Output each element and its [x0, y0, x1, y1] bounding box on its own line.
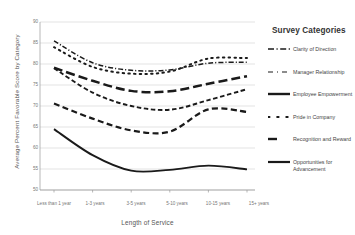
legend-swatch-solid-thick-icon [268, 89, 290, 99]
legend-label: Manager Relationship [293, 67, 345, 77]
series-line [54, 41, 247, 71]
legend-item-pride-in-company[interactable]: Pride in Company [268, 112, 355, 125]
series-line [54, 47, 247, 74]
grid-lines [40, 22, 255, 190]
legend-item-opportunities-for-advancement[interactable]: Opportunities for Advancement [268, 157, 355, 175]
legend-item-manager-relationship[interactable]: Manager Relationship [268, 67, 355, 80]
legend-swatch-solid-icon [268, 157, 290, 167]
legend-label: Pride in Company [293, 112, 335, 122]
legend-swatch-dotted-icon [268, 112, 290, 122]
legend-item-recognition-and-reward[interactable]: Recognition and Reward [268, 134, 355, 147]
legend-item-employee-empowerment[interactable]: Employee Empowerment [268, 89, 355, 102]
legend-label: Employee Empowerment [293, 89, 352, 99]
legend-item-clarity-of-direction[interactable]: Clarity of Direction [268, 44, 355, 57]
legend-label: Clarity of Direction [293, 44, 336, 54]
chart-figure: Average Percent Favorable Score by Categ… [0, 0, 355, 235]
legend-label: Recognition and Reward [293, 134, 351, 144]
series-line [54, 129, 247, 172]
legend-swatch-dash-dot-thin-icon [268, 67, 290, 77]
data-series-group [54, 41, 247, 172]
legend-swatch-dash-icon [268, 134, 290, 144]
legend-swatch-dash-dot-icon [268, 44, 290, 54]
series-line [54, 103, 247, 133]
legend-title: Survey Categories [272, 26, 355, 35]
legend: Survey Categories Clarity of Direction M… [268, 26, 355, 184]
legend-label: Opportunities for Advancement [293, 157, 355, 175]
